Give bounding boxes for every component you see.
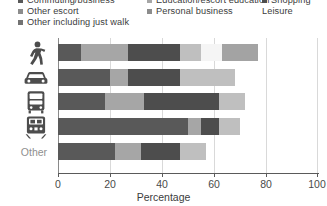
legend-item-personal-business[interactable]: Personal business [147, 6, 233, 17]
bar-segment-other-leisure[interactable] [180, 143, 206, 160]
plot-area [58, 38, 318, 173]
bar-segment-train-education[interactable] [188, 118, 201, 135]
y-category-walk [18, 40, 54, 66]
car-icon [23, 69, 49, 87]
walking-person-icon [25, 41, 47, 65]
bus-icon [25, 90, 47, 114]
y-category-train [18, 114, 54, 140]
y-category-other-label: Other [21, 146, 47, 158]
bar-segment-walk-commuting[interactable] [58, 44, 81, 61]
bar-segment-bus-shopping[interactable] [144, 93, 219, 110]
bar-segment-other-shopping[interactable] [141, 143, 180, 160]
legend-swatch-education-escort [147, 0, 152, 3]
legend-label-other-including-just-walk: Other including just walk [27, 17, 129, 28]
legend-label-leisure: Leisure [262, 6, 293, 17]
bar-segment-train-shopping[interactable] [201, 118, 219, 135]
x-tick-60 [214, 173, 215, 177]
bar-segment-car-leisure[interactable] [180, 69, 235, 86]
x-tick-100 [317, 173, 318, 177]
x-axis-line [58, 173, 319, 174]
bar-segment-bus-commuting[interactable] [58, 93, 105, 110]
bar-segment-other-education[interactable] [115, 143, 141, 160]
x-tick-80 [266, 173, 267, 177]
legend-label-personal-business: Personal business [156, 6, 233, 17]
bar-segment-walk-shopping[interactable] [128, 44, 180, 61]
x-tick-label-40: 40 [142, 178, 182, 190]
legend-swatch-shopping [262, 0, 267, 3]
gridline-80 [266, 38, 267, 173]
x-tick-label-80: 80 [246, 178, 286, 190]
bar-segment-car-shopping[interactable] [128, 69, 180, 86]
bar-segment-walk-personal-business[interactable] [222, 44, 258, 61]
bar-segment-train-leisure[interactable] [219, 118, 240, 135]
train-icon [24, 115, 48, 139]
legend-label-other-escort: Other escort [27, 6, 79, 17]
legend-swatch-commuting-business [18, 0, 23, 3]
x-tick-label-100: 100 [297, 178, 327, 190]
x-tick-label-60: 60 [194, 178, 234, 190]
y-category-car [18, 65, 54, 91]
gridline-100 [317, 38, 318, 173]
y-category-bus [18, 89, 54, 115]
x-tick-labels: 0 20 40 60 80 100 [0, 178, 327, 192]
legend-item-leisure[interactable]: Leisure [262, 6, 293, 17]
x-tick-label-0: 0 [38, 178, 78, 190]
y-category-other: Other [12, 139, 56, 165]
bar-segment-train-commuting[interactable] [58, 118, 188, 135]
x-tick-40 [162, 173, 163, 177]
bar-segment-walk-education[interactable] [81, 44, 128, 61]
legend-swatch-other-escort [18, 9, 23, 14]
bar-segment-other-commuting[interactable] [58, 143, 115, 160]
bar-segment-walk-other-escort[interactable] [201, 44, 222, 61]
legend-row-3: Other including just walk [0, 17, 327, 28]
bar-segment-walk-leisure[interactable] [180, 44, 201, 61]
bar-segment-car-commuting[interactable] [58, 69, 110, 86]
chart-legend: Commuting/business Education/escort educ… [0, 0, 327, 29]
bar-segment-car-education[interactable] [110, 69, 128, 86]
bar-segment-bus-leisure[interactable] [219, 93, 245, 110]
x-axis-title: Percentage [0, 191, 327, 203]
bar-segment-bus-education[interactable] [105, 93, 144, 110]
legend-swatch-other-including-just-walk [18, 20, 23, 25]
legend-swatch-personal-business [147, 9, 152, 14]
legend-item-other-escort[interactable]: Other escort [18, 6, 79, 17]
x-tick-0 [58, 173, 59, 177]
stacked-bar-chart: Commuting/business Education/escort educ… [0, 0, 327, 206]
legend-row-2: Other escort Personal business Leisure [0, 6, 327, 17]
x-tick-label-20: 20 [90, 178, 130, 190]
x-tick-20 [110, 173, 111, 177]
legend-item-other-including-just-walk[interactable]: Other including just walk [18, 17, 129, 28]
